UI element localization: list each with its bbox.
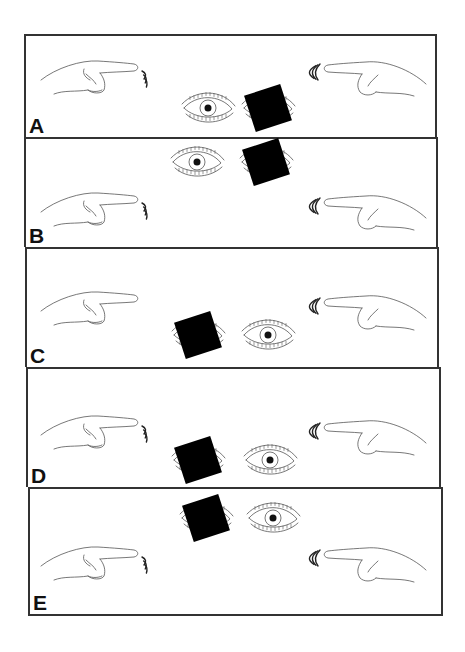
sound-waves-icon: [309, 550, 320, 566]
eye-icon: [171, 147, 224, 177]
panel-art-a: [41, 61, 426, 132]
eye-icon: [182, 93, 235, 123]
left-hand-icon: [41, 547, 147, 580]
sound-waves-icon: [309, 298, 320, 314]
occluder-square-icon: [180, 494, 233, 542]
right-hand-icon: [309, 421, 426, 455]
sound-waves-icon: [142, 557, 147, 573]
left-hand-icon: [41, 292, 138, 325]
five-panel-diagram: A B C D E: [0, 0, 465, 652]
right-hand-icon: [309, 196, 426, 230]
sound-waves-icon: [309, 198, 320, 214]
sound-waves-icon: [142, 203, 147, 219]
sound-waves-icon: [309, 423, 320, 439]
left-hand-icon: [41, 61, 147, 94]
left-hand-icon: [41, 416, 147, 449]
illustration-layer: [0, 0, 465, 652]
occluder-square-icon: [240, 138, 293, 186]
panel-art-d: [41, 416, 426, 484]
sound-waves-icon: [142, 71, 147, 87]
occluder-square-icon: [172, 436, 225, 484]
panel-art-b: [41, 138, 426, 230]
panel-art-c: [41, 292, 426, 359]
eye-icon: [242, 320, 295, 350]
eye-icon: [244, 445, 297, 475]
panel-art-e: [41, 494, 426, 582]
right-hand-icon: [309, 62, 426, 96]
right-hand-icon: [309, 548, 426, 582]
right-hand-icon: [309, 296, 426, 330]
occluder-square-icon: [172, 311, 225, 359]
sound-waves-icon: [142, 426, 147, 442]
occluder-square-icon: [242, 84, 295, 132]
left-hand-icon: [41, 193, 147, 226]
eye-icon: [247, 503, 300, 533]
sound-waves-icon: [309, 64, 320, 80]
